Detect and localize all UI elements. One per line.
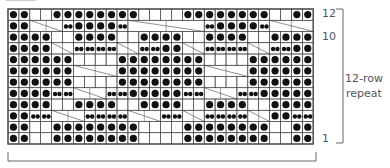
row-label-1: 1 (322, 132, 329, 145)
row-label-10: 10 (322, 30, 336, 43)
knitting-chart (0, 0, 390, 168)
repeat-line-2: repeat (340, 86, 388, 101)
repeat-annotation: 12-row repeat (340, 71, 388, 101)
repeat-line-1: 12-row (340, 71, 388, 86)
row-label-12: 12 (322, 7, 336, 20)
